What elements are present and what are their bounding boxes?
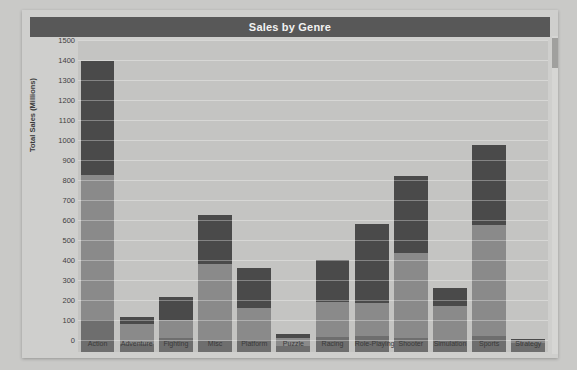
gridline: [78, 120, 548, 121]
x-axis-tick-label: Platform: [237, 340, 271, 347]
gridline: [78, 200, 548, 201]
gridline: [78, 220, 548, 221]
bar-stack[interactable]: [276, 40, 310, 352]
bar-stack[interactable]: [159, 40, 193, 352]
bar-stack[interactable]: [355, 40, 389, 352]
gridline: [78, 320, 548, 321]
y-axis-tick-label: 1400: [58, 56, 75, 65]
bar-segment-middle-segment[interactable]: [81, 175, 115, 320]
y-axis-tick-label: 600: [62, 216, 75, 225]
vertical-scrollbar-thumb[interactable]: [552, 38, 558, 68]
x-axis-tick-label: Role-Playing: [355, 340, 389, 347]
bar-segment-top-segment[interactable]: [433, 288, 467, 306]
y-axis-ticks: 1500140013001200110010009008007006005004…: [38, 40, 78, 352]
bar-segment-middle-segment[interactable]: [159, 320, 193, 338]
x-axis-tick-label: Action: [81, 340, 115, 347]
gridline: [78, 180, 548, 181]
y-axis-tick-label: 1500: [58, 36, 75, 45]
y-axis-tick-label: 300: [62, 276, 75, 285]
y-axis-tick-label: 200: [62, 296, 75, 305]
bar-stack[interactable]: [198, 40, 232, 352]
gridline: [78, 260, 548, 261]
bar-segment-top-segment[interactable]: [316, 260, 350, 302]
y-axis-tick-label: 1300: [58, 76, 75, 85]
gridline: [78, 80, 548, 81]
y-axis-tick-label: 0: [71, 336, 75, 345]
y-axis-tick-label: 500: [62, 236, 75, 245]
bar-stack[interactable]: [237, 40, 271, 352]
gridline: [78, 60, 548, 61]
bar-stack[interactable]: [81, 40, 115, 352]
y-axis-tick-label: 800: [62, 176, 75, 185]
gridline: [78, 160, 548, 161]
bar-segment-middle-segment[interactable]: [198, 264, 232, 341]
bar-segment-top-segment[interactable]: [394, 176, 428, 253]
x-axis-labels: ActionAdventureFightingMiscPlatformPuzzl…: [78, 340, 548, 358]
bar-stack[interactable]: [120, 40, 154, 352]
y-axis-tick-label: 1200: [58, 96, 75, 105]
gridline: [78, 240, 548, 241]
bar-stack[interactable]: [316, 40, 350, 352]
chart-title: Sales by Genre: [249, 21, 331, 33]
gridline: [78, 340, 548, 341]
x-axis-tick-label: Adventure: [120, 340, 154, 347]
bar-segment-middle-segment[interactable]: [394, 253, 428, 338]
y-axis-tick-label: 1000: [58, 136, 75, 145]
bar-segment-top-segment[interactable]: [237, 268, 271, 308]
x-axis-tick-label: Strategy: [511, 340, 545, 347]
plot-area: [78, 40, 548, 352]
x-axis-tick-label: Fighting: [159, 340, 193, 347]
bar-stack[interactable]: [433, 40, 467, 352]
bar-stack[interactable]: [511, 40, 545, 352]
y-axis-tick-label: 100: [62, 316, 75, 325]
plot-container: Total Sales (Millions) 15001400130012001…: [30, 40, 550, 352]
bar-series-group: [78, 40, 548, 352]
gridline: [78, 300, 548, 301]
bar-segment-middle-segment[interactable]: [433, 306, 467, 341]
gridline: [78, 140, 548, 141]
x-axis-tick-label: Misc: [198, 340, 232, 347]
x-axis-tick-label: Shooter: [394, 340, 428, 347]
y-axis-tick-label: 1100: [59, 116, 75, 125]
y-axis-label: Total Sales (Millions): [28, 78, 37, 152]
vertical-scrollbar-track[interactable]: [552, 36, 558, 354]
bar-stack[interactable]: [472, 40, 506, 352]
gridline: [78, 280, 548, 281]
bar-segment-middle-segment[interactable]: [237, 308, 271, 340]
bar-stack[interactable]: [394, 40, 428, 352]
bar-segment-top-segment[interactable]: [472, 145, 506, 225]
gridline: [78, 100, 548, 101]
gridline: [78, 40, 548, 41]
bar-segment-top-segment[interactable]: [81, 61, 115, 175]
chart-title-bar: Sales by Genre: [30, 17, 550, 37]
chart-window: Sales by Genre Total Sales (Millions) 15…: [22, 10, 558, 358]
bar-segment-top-segment[interactable]: [355, 224, 389, 303]
y-axis-tick-label: 400: [62, 256, 75, 265]
y-axis-tick-label: 700: [62, 196, 75, 205]
x-axis-tick-label: Simulation: [433, 340, 467, 347]
x-axis-tick-label: Puzzle: [276, 340, 310, 347]
x-axis-tick-label: Sports: [472, 340, 506, 347]
y-axis-tick-label: 900: [62, 156, 75, 165]
x-axis-tick-label: Racing: [316, 340, 350, 347]
